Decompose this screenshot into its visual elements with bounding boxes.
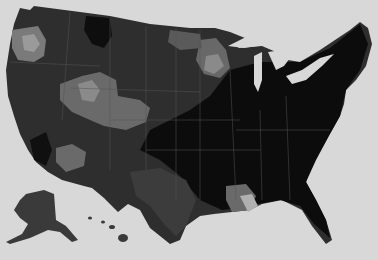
us-map xyxy=(0,0,378,260)
